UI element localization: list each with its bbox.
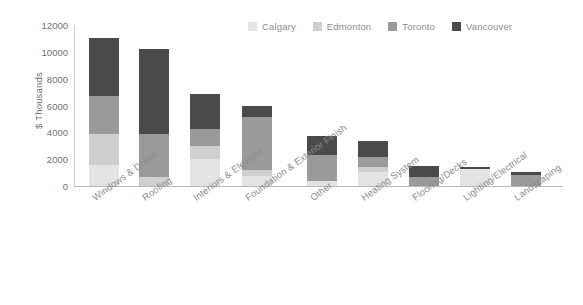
y-tick-label: 0 [22,181,68,192]
bar-segment[interactable] [89,96,119,134]
plot-area: 120001000080006000400020000 Windows & Do… [74,25,563,186]
y-tick-label: 2000 [22,154,68,165]
bar-segment[interactable] [190,146,220,159]
bar-segment[interactable] [190,129,220,146]
y-tick-label: 8000 [22,73,68,84]
y-tick-label: 12000 [22,20,68,31]
bar-segment[interactable] [89,134,119,165]
bar-segment[interactable] [89,38,119,96]
bar-stack[interactable] [190,94,220,186]
y-tick-label: 4000 [22,127,68,138]
bar-segment[interactable] [358,157,388,168]
bar-segment[interactable] [307,155,337,181]
bar-segment[interactable] [358,141,388,156]
stacked-bar-chart: Calgary Edmonton Toronto Vancouver $ Tho… [0,0,583,305]
bar-segment[interactable] [190,94,220,129]
y-tick-label: 10000 [22,46,68,57]
bar-stack[interactable] [89,38,119,186]
y-axis-line [74,25,75,186]
bar-segment[interactable] [242,106,272,118]
bar-segment[interactable] [139,49,169,135]
y-tick-label: 6000 [22,100,68,111]
